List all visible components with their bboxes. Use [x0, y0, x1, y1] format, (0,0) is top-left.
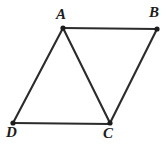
figure-canvas [0, 0, 166, 147]
vertex-dot-b [154, 26, 159, 31]
vertex-label-a: A [56, 7, 66, 22]
edge-ad [13, 28, 63, 123]
vertex-label-c: C [103, 126, 113, 141]
edge-ac-diagonal [63, 28, 110, 123]
geometry-figure: A B C D [0, 0, 166, 147]
vertex-label-b: B [149, 5, 159, 20]
vertex-dot-a [60, 25, 65, 30]
edge-dc [13, 123, 110, 124]
vertex-label-d: D [6, 125, 17, 140]
edge-ab [63, 28, 157, 29]
edge-bc [110, 29, 157, 123]
